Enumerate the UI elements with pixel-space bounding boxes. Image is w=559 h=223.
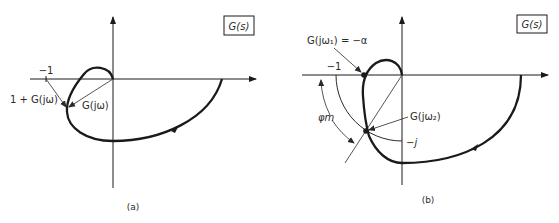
phase-margin-arc-lower xyxy=(332,120,354,143)
panel-b: G(s) −1 φm G(jω₁) = −α G(jω₂) −j (b) xyxy=(302,15,548,205)
g-jw2-point xyxy=(363,128,369,134)
phase-margin-label: φm xyxy=(318,112,335,123)
minus-j-label: −j xyxy=(406,137,417,148)
minus-one-label-a: −1 xyxy=(39,65,54,76)
gs-label-a: G(s) xyxy=(229,21,250,32)
phase-margin-line xyxy=(345,75,402,163)
phase-margin-arc xyxy=(321,80,330,115)
one-plus-g-label: 1 + G(jω) xyxy=(10,94,58,105)
panel-a: G(s) −1 1 + G(jω) G(jω) (a) xyxy=(10,16,256,212)
nyquist-curve-b xyxy=(363,60,521,163)
g-jw1-point xyxy=(361,72,367,78)
minus-one-label-b: −1 xyxy=(327,61,342,72)
caption-a: (a) xyxy=(127,202,140,212)
g-jw2-label: G(jω₂) xyxy=(410,111,441,122)
g-jw-label: G(jω) xyxy=(82,100,109,111)
unit-circle-arc xyxy=(336,75,402,141)
g-jw1-label: G(jω₁) = −α xyxy=(307,35,368,46)
nyquist-figure: G(s) −1 1 + G(jω) G(jω) (a) G(s) −1 φm xyxy=(0,0,559,223)
caption-b: (b) xyxy=(422,195,435,205)
gs-label-b: G(s) xyxy=(522,19,543,30)
